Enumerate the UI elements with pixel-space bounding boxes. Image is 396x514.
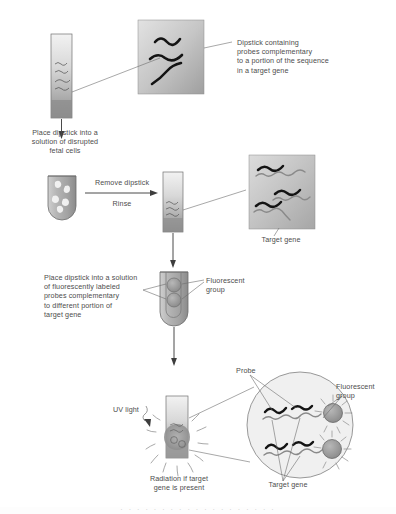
- tube-fluorescent-probes: [160, 272, 188, 326]
- test-tube-fetal-cells: [48, 176, 76, 220]
- magnified-panel-probes: [138, 20, 204, 94]
- label-fluorescent-group-mid: Fluorescent group: [206, 276, 266, 294]
- arrow-down-3: [171, 327, 177, 366]
- label-rinse: Rinse: [92, 199, 152, 208]
- glow-core: [164, 424, 190, 450]
- label-dipstick-callout: Dipstick containing probes complementary…: [237, 38, 395, 75]
- fluorescent-group-circle-1: [167, 278, 181, 292]
- uv-illuminated-tube: [146, 396, 208, 476]
- cut-off-caption: · · · · · · · · · · · · · · · · · · ·: [0, 505, 396, 514]
- dipstick-strip-2: [163, 172, 183, 232]
- fluorescent-group-circle-2: [167, 293, 181, 307]
- arrow-remove-rinse: [85, 190, 158, 196]
- label-radiation: Radiation if target gene is present: [128, 474, 230, 492]
- label-fluorescent-group-bottom: Fluorescent group: [336, 382, 394, 400]
- arrow-down-2: [170, 233, 176, 268]
- label-probe: Probe: [236, 366, 274, 375]
- dipstick-strip-1: [51, 34, 72, 118]
- label-target-gene-bottom: Target gene: [252, 480, 324, 489]
- label-target-gene-top: Target gene: [244, 235, 318, 244]
- dipstick-assay-diagram: [0, 0, 396, 514]
- label-uv-light: UV light: [113, 405, 155, 414]
- leader-lines-step3: [183, 190, 246, 210]
- label-place-dipstick-fetal: Place dipstick into a solution of disrup…: [10, 128, 120, 156]
- leader-lines-magnify-circle: [189, 387, 254, 462]
- magnified-panel-hybridized: [249, 155, 315, 229]
- fluorescent-group-detection-2: [323, 440, 342, 459]
- label-place-dipstick-fluorescent: Place dipstick into a solution of fluore…: [44, 273, 152, 319]
- label-remove-dipstick: Remove dipstick: [86, 178, 158, 187]
